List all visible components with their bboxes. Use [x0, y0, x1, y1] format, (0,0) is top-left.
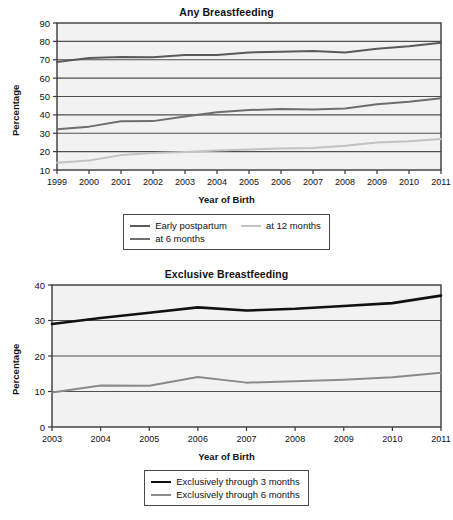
legend-any: Early postpartum at 12 months at 6 month… — [123, 214, 330, 250]
svg-text:90: 90 — [39, 18, 50, 29]
legend-line-swatch-icon — [151, 481, 171, 483]
svg-text:2007: 2007 — [236, 434, 256, 444]
legend-label-at-12-months: at 12 months — [266, 219, 321, 232]
svg-text:50: 50 — [39, 91, 50, 102]
svg-text:70: 70 — [39, 54, 50, 65]
svg-text:10: 10 — [39, 165, 50, 176]
svg-text:2011: 2011 — [431, 177, 450, 187]
legend-label-exclusively-6-months: Exclusively through 6 months — [176, 488, 300, 501]
plot-svg-any: 1020304050607080901999200020012002200320… — [0, 18, 453, 193]
chart-any-breastfeeding: Any Breastfeeding Percentage 10203040506… — [0, 0, 453, 262]
svg-text:10: 10 — [34, 386, 45, 397]
legend-label-early-postpartum: Early postpartum — [155, 219, 227, 232]
legend-item-early-postpartum: Early postpartum — [130, 219, 227, 232]
svg-text:80: 80 — [39, 36, 50, 47]
svg-text:2000: 2000 — [79, 177, 99, 187]
svg-text:2005: 2005 — [139, 434, 159, 444]
legend-item-exclusively-3-months: Exclusively through 3 months — [151, 475, 300, 488]
svg-text:2006: 2006 — [188, 434, 208, 444]
legend-line-swatch-icon — [130, 238, 150, 240]
chart-title-any: Any Breastfeeding — [0, 0, 453, 18]
plot-area-exclusive: Percentage 01020304020032004200520062007… — [0, 280, 453, 450]
svg-text:2009: 2009 — [334, 434, 354, 444]
svg-text:2006: 2006 — [271, 177, 291, 187]
plot-area-any: Percentage 10203040506070809019992000200… — [0, 18, 453, 193]
svg-text:20: 20 — [34, 351, 45, 362]
y-axis-title-any: Percentage — [10, 85, 21, 136]
chart-exclusive-breastfeeding: Exclusive Breastfeeding Percentage 01020… — [0, 262, 453, 520]
svg-text:2008: 2008 — [285, 434, 305, 444]
svg-text:2004: 2004 — [91, 434, 111, 444]
legend-label-at-6-months: at 6 months — [155, 232, 205, 245]
svg-text:2007: 2007 — [303, 177, 323, 187]
svg-text:0: 0 — [40, 422, 45, 433]
svg-text:2009: 2009 — [367, 177, 387, 187]
legend-label-exclusively-3-months: Exclusively through 3 months — [176, 475, 300, 488]
x-axis-title-exclusive: Year of Birth — [0, 451, 453, 462]
legend-item-exclusively-6-months: Exclusively through 6 months — [151, 488, 300, 501]
svg-text:30: 30 — [34, 315, 45, 326]
legend-row-2: at 6 months — [130, 232, 321, 245]
svg-text:2003: 2003 — [175, 177, 195, 187]
legend-line-swatch-icon — [151, 494, 171, 496]
svg-text:2003: 2003 — [42, 434, 62, 444]
x-axis-title-any: Year of Birth — [0, 194, 453, 205]
legend-exclusive: Exclusively through 3 months Exclusively… — [144, 470, 309, 506]
legend-row-1: Early postpartum at 12 months — [130, 219, 321, 232]
svg-text:2008: 2008 — [335, 177, 355, 187]
svg-text:2005: 2005 — [239, 177, 259, 187]
legend-item-at-6-months: at 6 months — [130, 232, 205, 245]
legend-item-at-12-months: at 12 months — [241, 219, 321, 232]
svg-text:2004: 2004 — [207, 177, 227, 187]
svg-text:2002: 2002 — [143, 177, 163, 187]
legend-line-swatch-icon — [241, 225, 261, 227]
y-axis-title-exclusive: Percentage — [10, 344, 21, 395]
svg-text:20: 20 — [39, 146, 50, 157]
legend-row-2: Exclusively through 6 months — [151, 488, 300, 501]
svg-text:2001: 2001 — [111, 177, 131, 187]
svg-text:2010: 2010 — [382, 434, 402, 444]
svg-text:2011: 2011 — [431, 434, 450, 444]
svg-text:40: 40 — [39, 109, 50, 120]
svg-text:60: 60 — [39, 73, 50, 84]
chart-title-exclusive: Exclusive Breastfeeding — [0, 262, 453, 280]
svg-text:2010: 2010 — [399, 177, 419, 187]
svg-text:1999: 1999 — [47, 177, 67, 187]
svg-text:40: 40 — [34, 280, 45, 291]
svg-text:30: 30 — [39, 128, 50, 139]
legend-line-swatch-icon — [130, 225, 150, 227]
legend-row-1: Exclusively through 3 months — [151, 475, 300, 488]
plot-svg-exclusive: 0102030402003200420052006200720082009201… — [0, 280, 453, 450]
